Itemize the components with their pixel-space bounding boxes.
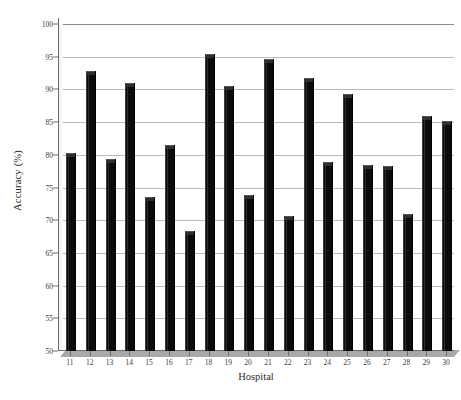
y-tick-label-50: 50: [46, 347, 54, 356]
bar-hospital-19: [224, 24, 232, 351]
x-tick-label-12: 12: [86, 358, 94, 367]
bar-body: [86, 71, 96, 351]
y-tick-label-55: 55: [46, 314, 54, 323]
x-tick-mark-15: [149, 351, 150, 356]
bar-edge-highlight: [385, 169, 386, 351]
bar-hospital-25: [343, 24, 351, 351]
bars-layer: [58, 24, 454, 351]
bar-hospital-26: [363, 24, 371, 351]
x-tick-label-27: 27: [383, 358, 391, 367]
y-tick-label-70: 70: [46, 216, 54, 225]
bar-edge-highlight: [444, 124, 445, 351]
bar-hospital-29: [422, 24, 430, 351]
bar-edge-highlight: [147, 200, 148, 351]
x-tick-mark-28: [407, 351, 408, 356]
y-axis-tick-labels: 50556065707580859095100: [32, 0, 56, 400]
bar-edge-highlight: [345, 97, 346, 351]
x-tick-label-28: 28: [403, 358, 411, 367]
bar-hospital-14: [125, 24, 133, 351]
bar-hospital-22: [284, 24, 292, 351]
bar-edge-highlight: [266, 62, 267, 351]
x-tick-mark-18: [209, 351, 210, 356]
bar-edge-highlight: [424, 119, 425, 351]
bar-edge-highlight: [325, 165, 326, 351]
bar-chart-figure: Accuracy (%) 50556065707580859095100 111…: [0, 0, 461, 400]
bar-body: [323, 162, 333, 351]
bar-body: [264, 59, 274, 351]
bar-hospital-21: [264, 24, 272, 351]
x-tick-mark-27: [387, 351, 388, 356]
bar-hospital-12: [86, 24, 94, 351]
bar-body: [383, 166, 393, 351]
bar-body: [106, 159, 116, 351]
bar-hospital-16: [165, 24, 173, 351]
x-axis-title: Hospital: [58, 371, 454, 382]
bar-body: [343, 94, 353, 351]
bar-hospital-23: [304, 24, 312, 351]
x-tick-label-24: 24: [324, 358, 332, 367]
x-tick-label-30: 30: [442, 358, 450, 367]
y-tick-label-65: 65: [46, 248, 54, 257]
bar-hospital-11: [66, 24, 74, 351]
x-tick-label-23: 23: [304, 358, 312, 367]
y-tick-label-80: 80: [46, 150, 54, 159]
bar-body: [125, 83, 135, 351]
x-tick-label-21: 21: [264, 358, 272, 367]
bar-hospital-13: [106, 24, 114, 351]
bar-body: [363, 165, 373, 351]
bar-edge-highlight: [286, 219, 287, 351]
bar-edge-highlight: [127, 86, 128, 351]
x-tick-mark-22: [288, 351, 289, 356]
y-tick-label-90: 90: [46, 85, 54, 94]
x-tick-label-19: 19: [225, 358, 233, 367]
bar-body: [185, 231, 195, 351]
x-tick-mark-26: [367, 351, 368, 356]
bar-hospital-30: [442, 24, 450, 351]
bar-edge-highlight: [226, 89, 227, 351]
y-tick-label-95: 95: [46, 52, 54, 61]
x-tick-label-16: 16: [165, 358, 173, 367]
x-tick-label-15: 15: [145, 358, 153, 367]
plot-area: [58, 24, 454, 351]
x-tick-label-14: 14: [126, 358, 134, 367]
bar-edge-highlight: [365, 168, 366, 351]
x-tick-mark-12: [90, 351, 91, 356]
x-tick-label-25: 25: [343, 358, 351, 367]
bar-body: [284, 216, 294, 351]
x-tick-label-26: 26: [363, 358, 371, 367]
bar-body: [304, 78, 314, 351]
x-tick-mark-14: [129, 351, 130, 356]
x-tick-mark-13: [110, 351, 111, 356]
x-tick-label-18: 18: [205, 358, 213, 367]
bar-body: [145, 197, 155, 351]
x-tick-label-22: 22: [284, 358, 292, 367]
x-tick-mark-25: [347, 351, 348, 356]
y-tick-label-100: 100: [42, 20, 53, 29]
x-tick-mark-16: [169, 351, 170, 356]
bar-hospital-15: [145, 24, 153, 351]
bar-body: [66, 153, 76, 351]
bar-hospital-27: [383, 24, 391, 351]
x-tick-mark-24: [327, 351, 328, 356]
x-tick-label-13: 13: [106, 358, 114, 367]
x-tick-mark-23: [308, 351, 309, 356]
bar-edge-highlight: [167, 148, 168, 351]
x-tick-label-29: 29: [423, 358, 431, 367]
x-tick-mark-19: [228, 351, 229, 356]
bar-edge-highlight: [405, 217, 406, 351]
bar-edge-highlight: [246, 198, 247, 351]
bar-edge-highlight: [88, 74, 89, 351]
x-tick-label-20: 20: [244, 358, 252, 367]
bar-edge-highlight: [68, 156, 69, 351]
bar-body: [224, 86, 234, 351]
x-tick-mark-17: [189, 351, 190, 356]
bar-edge-highlight: [187, 234, 188, 351]
x-tick-mark-11: [70, 351, 71, 356]
x-tick-mark-21: [268, 351, 269, 356]
x-tick-label-17: 17: [185, 358, 193, 367]
bar-body: [165, 145, 175, 351]
bar-hospital-20: [244, 24, 252, 351]
bar-body: [422, 116, 432, 351]
bar-hospital-28: [403, 24, 411, 351]
y-axis-title-text: Accuracy (%): [12, 150, 23, 211]
